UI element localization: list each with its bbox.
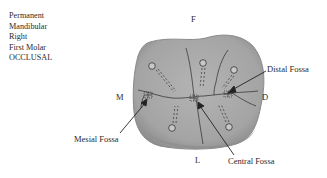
central-fossa-label: Central Fossa [228,156,275,166]
distolingual-cusp-tip [226,124,233,131]
mesiolingual-cusp-tip [169,125,176,132]
mesiobuccal-cusp-tip [149,63,156,70]
tooth-occlusal-diagram [0,0,327,178]
distal-orientation-label: D [262,92,268,102]
distobuccal-cusp-tip [200,60,207,67]
distal-cusp-tip [231,67,238,74]
mesial-orientation-label: M [116,92,124,102]
lingual-orientation-label: L [195,155,200,165]
distal-fossa-label: Distal Fossa [267,64,309,74]
facial-orientation-label: F [191,14,196,24]
mesial-fossa-label: Mesial Fossa [74,134,119,144]
